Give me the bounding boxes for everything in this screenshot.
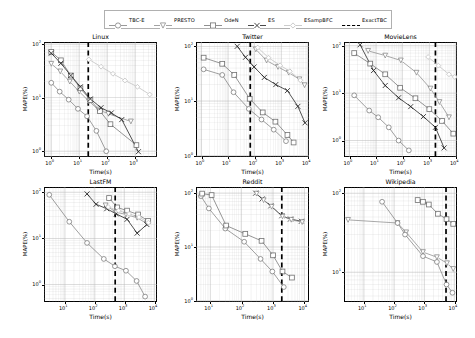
x-tick-label: 104 [449, 305, 458, 311]
figure-root: TBC-EPRESTOOdeNESESampBFCExactTBC Linux1… [0, 0, 475, 338]
x-tick-label: 103 [418, 305, 427, 311]
subplot-wikipedia: Wikipedia101102103104101102Time(s)MAPE(%… [0, 0, 475, 338]
y-axis-label: MAPE(%) [321, 186, 327, 301]
x-tick-label: 101 [358, 305, 367, 311]
x-tick-label: 102 [388, 305, 397, 311]
y-tick-label: 102 [328, 190, 341, 196]
x-axis-label: Time(s) [344, 313, 457, 320]
y-tickmark [342, 193, 344, 194]
y-tickmark [342, 272, 344, 273]
y-tick-label: 101 [328, 269, 341, 275]
subplot-title: Wikipedia [344, 178, 457, 185]
